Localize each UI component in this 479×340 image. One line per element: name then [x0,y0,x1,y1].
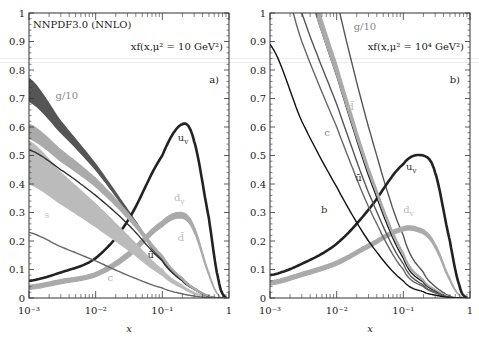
y-tick-label: 0.1 [9,264,25,275]
scale-annotation: xf(x,μ² = 10 GeV²) [131,41,223,52]
y-tick-label: 0.7 [250,93,266,104]
y-tick-label: 1 [260,8,266,19]
x-tick-label: 10⁻² [85,305,107,316]
y-tick-label: 0 [260,293,266,304]
curve-label: g/10 [354,21,377,32]
y-tick-label: 1 [19,8,25,19]
panel-b: 00.10.20.30.40.50.60.70.80.9110⁻³10⁻²10⁻… [250,0,473,334]
chart-title: NNPDF3.0 (NNLO) [33,19,132,30]
x-tick-label: 10⁻³ [259,305,281,316]
curve-label: ū [148,249,155,260]
y-tick-label: 0.2 [9,236,25,247]
y-tick-label: 0.3 [9,207,25,218]
y-tick-label: 0.7 [9,93,25,104]
x-axis-label: x [126,323,132,334]
curve-label: ū [355,172,362,183]
y-tick-label: 0.3 [250,207,266,218]
x-tick-label: 10⁻² [326,305,348,316]
y-tick-label: 0.6 [9,122,25,133]
y-tick-label: 0.5 [250,150,266,161]
panel-tag: b) [450,74,460,85]
y-tick-label: 0.9 [250,36,266,47]
curve-label: g/10 [56,90,79,101]
curve-label: uv [406,161,416,175]
plot-area [29,79,226,299]
panel-tag: a) [209,74,219,85]
x-tick-label: 10⁻³ [18,305,40,316]
y-tick-label: 0.9 [9,36,25,47]
curve-label: b [321,204,327,215]
x-axis-label: x [367,323,373,334]
y-tick-label: 0.6 [250,122,266,133]
y-tick-label: 0.8 [250,65,266,76]
y-tick-label: 0.4 [250,179,266,190]
series-dv-line-band [29,212,226,298]
pdf-chart-figure: 00.10.20.30.40.50.60.70.80.9110⁻³10⁻²10⁻… [0,0,479,340]
curve-label: dv [174,192,184,206]
curve-label: s [44,209,49,220]
y-tick-label: 0.4 [9,179,25,190]
scale-annotation: xf(x,μ² = 10⁴ GeV²) [368,41,464,52]
y-tick-label: 0.1 [250,264,266,275]
y-tick-label: 0.5 [9,150,25,161]
series-dv-line-band [270,226,467,298]
curve-label: c [107,272,113,283]
y-tick-label: 0 [19,293,25,304]
panel-a: 00.10.20.30.40.50.60.70.80.9110⁻³10⁻²10⁻… [9,8,232,335]
x-tick-label: 1 [226,305,232,316]
curve-label: c [324,127,330,138]
x-tick-label: 10⁻¹ [392,305,414,316]
curve-label: d̄ [347,101,354,112]
curve-label: dv [403,204,413,218]
x-tick-label: 1 [467,305,473,316]
x-tick-label: 10⁻¹ [151,305,173,316]
y-tick-label: 0.8 [9,65,25,76]
curve-label: d̄ [178,232,185,243]
y-tick-label: 0.2 [250,236,266,247]
curve-label: uv [178,132,188,146]
